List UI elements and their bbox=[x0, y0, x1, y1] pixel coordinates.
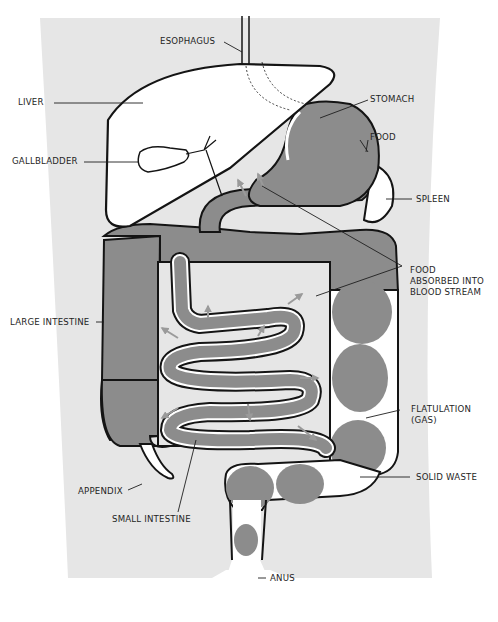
label-gallbladder: GALLBLADDER bbox=[12, 156, 78, 167]
label-appendix: APPENDIX bbox=[78, 486, 123, 497]
label-liver: LIVER bbox=[18, 97, 44, 108]
label-large-intestine: LARGE INTESTINE bbox=[10, 317, 89, 328]
label-esophagus: ESOPHAGUS bbox=[160, 36, 215, 47]
label-food-absorbed-line1: FOOD bbox=[410, 265, 436, 276]
label-food: FOOD bbox=[370, 132, 396, 143]
digestive-system-diagram bbox=[0, 0, 498, 622]
label-spleen: SPLEEN bbox=[416, 194, 450, 205]
label-food-absorbed-line2: ABSORBED INTO bbox=[410, 276, 484, 287]
label-solid-waste: SOLID WASTE bbox=[416, 472, 477, 483]
label-food-absorbed-line3: BLOOD STREAM bbox=[410, 287, 481, 298]
label-flatulation-line1: FLATULATION bbox=[411, 404, 471, 415]
label-small-intestine: SMALL INTESTINE bbox=[112, 514, 191, 525]
label-stomach: STOMACH bbox=[370, 94, 414, 105]
label-flatulation-line2: (GAS) bbox=[411, 415, 437, 426]
label-anus: ANUS bbox=[270, 573, 295, 584]
